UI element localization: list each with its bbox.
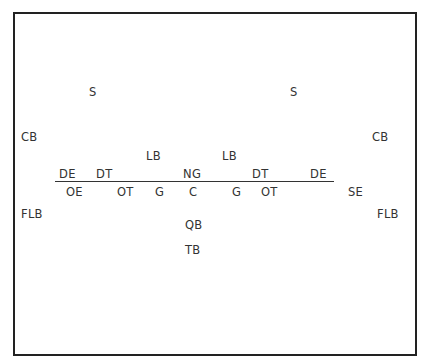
field-frame — [13, 12, 417, 356]
defense-tackle-right: DT — [252, 168, 268, 180]
defense-linebacker-left: LB — [146, 150, 161, 162]
defense-cornerback-left: CB — [21, 131, 38, 143]
defense-cornerback-right: CB — [372, 131, 389, 143]
defense-nose-guard: NG — [183, 168, 201, 180]
offense-tackle-right: OT — [261, 186, 278, 198]
offense-quarterback: QB — [185, 219, 203, 231]
defense-safety-right: S — [290, 86, 298, 98]
defense-linebacker-right: LB — [222, 150, 237, 162]
defense-end-right: DE — [310, 168, 327, 180]
offense-split-end: SE — [348, 186, 363, 198]
offense-flanker-right: FLB — [377, 208, 399, 220]
line-of-scrimmage — [55, 181, 334, 182]
defense-safety-left: S — [89, 86, 97, 98]
defense-tackle-left: DT — [96, 168, 112, 180]
offense-tackle-left: OT — [117, 186, 134, 198]
offense-guard-left: G — [155, 186, 164, 198]
defense-end-left: DE — [59, 168, 76, 180]
offense-center: C — [189, 186, 197, 198]
offense-tailback: TB — [185, 244, 201, 256]
offense-guard-right: G — [232, 186, 241, 198]
offense-end: OE — [66, 186, 83, 198]
offense-flanker-left: FLB — [21, 208, 43, 220]
